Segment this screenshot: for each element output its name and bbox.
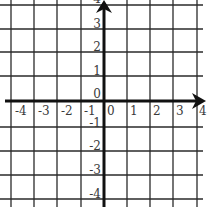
x-label-zero: 0	[107, 104, 115, 118]
x-label-neg2: -2	[61, 104, 73, 118]
grid-lines	[0, 0, 203, 207]
x-label-4: 4	[199, 104, 207, 118]
y-label-zero: 0	[93, 87, 101, 101]
x-label-2: 2	[153, 104, 161, 118]
x-label-1: 1	[130, 104, 138, 118]
y-label-1: 1	[93, 64, 101, 78]
x-tick-labels: -4 -3 -2 -1 0 1 2 3 4	[15, 104, 207, 118]
y-label-neg4: -4	[89, 187, 101, 201]
x-label-neg3: -3	[38, 104, 50, 118]
coordinate-plane: -4 -3 -2 -1 0 1 2 3 4 4 3 2 1 0 -1 -2 -3…	[0, 0, 207, 207]
y-label-4: 4	[93, 0, 101, 6]
y-label-2: 2	[93, 40, 101, 54]
y-label-neg2: -2	[89, 139, 101, 153]
y-label-3: 3	[93, 17, 101, 31]
x-label-neg4: -4	[15, 104, 27, 118]
y-label-neg3: -3	[89, 163, 101, 177]
x-label-3: 3	[176, 104, 184, 118]
y-label-neg1: -1	[89, 116, 101, 130]
